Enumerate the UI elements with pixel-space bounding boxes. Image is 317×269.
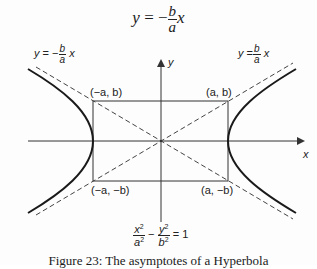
label-pos-var: x bbox=[264, 47, 270, 59]
corner-label-bottom-left: (−a, −b) bbox=[91, 184, 130, 196]
label-pos-denominator: a bbox=[253, 54, 261, 65]
hyp-eq-exp: 2 bbox=[164, 223, 168, 230]
corner-label-bottom-right: (a, −b) bbox=[201, 184, 233, 196]
y-axis-label: y bbox=[168, 56, 174, 68]
label-neg-lhs: y bbox=[34, 47, 40, 59]
asymptote-label-positive: y =ba x bbox=[238, 44, 269, 65]
x-axis-label: x bbox=[303, 148, 309, 160]
hyperbola-equation: x2a2 − y2b2 = 1 bbox=[133, 223, 188, 248]
asymptote-label-negative: y = −ba x bbox=[34, 44, 75, 65]
hyp-eq-rhs: = 1 bbox=[173, 228, 189, 240]
hyp-eq-term1: x2a2 bbox=[133, 223, 145, 248]
asymptote-positive bbox=[36, 63, 293, 215]
hyp-eq-term2: y2b2 bbox=[158, 223, 170, 248]
label-neg-equals: = bbox=[43, 47, 49, 59]
corner-label-top-left: (−a, b) bbox=[90, 86, 122, 98]
label-neg-denominator: a bbox=[59, 54, 67, 65]
label-pos-fraction: ba bbox=[253, 44, 261, 65]
hyp-eq-minus: − bbox=[148, 228, 154, 240]
label-pos-numerator: b bbox=[253, 44, 261, 54]
corner-label-top-right: (a, b) bbox=[206, 86, 232, 98]
label-pos-lhs: y bbox=[238, 47, 244, 59]
label-neg-fraction: ba bbox=[59, 44, 67, 65]
label-neg-numerator: b bbox=[59, 44, 67, 54]
hyp-eq-exp: 2 bbox=[140, 236, 144, 243]
asymptote-negative bbox=[36, 67, 293, 219]
figure-caption: Figure 23: The asymptotes of a Hyperbola bbox=[0, 253, 317, 269]
origin-point bbox=[160, 140, 162, 142]
hyp-eq-exp: 2 bbox=[165, 236, 169, 243]
hyp-eq-exp: 2 bbox=[140, 223, 144, 230]
label-neg-var: x bbox=[69, 47, 75, 59]
